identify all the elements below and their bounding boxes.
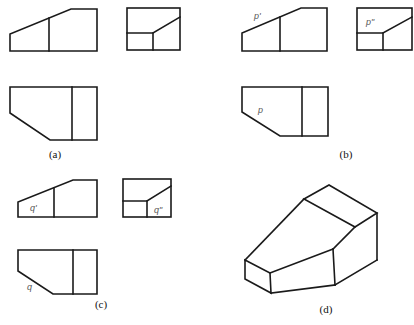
label-p: p	[257, 105, 263, 115]
panel-c-side-view: q"	[123, 179, 171, 217]
panel-a-caption: (a)	[49, 148, 62, 161]
three-view-figure: (a) p' p" p (b) q'	[0, 0, 414, 325]
panel-a-front-view	[10, 9, 97, 51]
panel-c: q' q" q (c)	[18, 179, 171, 311]
panel-d-caption: (d)	[320, 303, 333, 316]
panel-b-top-view: p	[242, 87, 328, 136]
panel-b-caption: (b)	[340, 148, 353, 161]
label-p-prime: p'	[253, 11, 261, 21]
label-p-double-prime: p"	[365, 17, 375, 27]
panel-b-front-view: p'	[242, 8, 327, 51]
panel-c-caption: (c)	[95, 298, 108, 311]
panel-b: p' p" p (b)	[242, 8, 412, 161]
panel-c-top-view: q	[18, 250, 97, 294]
label-q: q	[27, 282, 32, 292]
panel-a-side-view	[127, 8, 180, 50]
panel-a-top-view	[10, 87, 97, 140]
label-q-double-prime: q"	[154, 205, 163, 215]
label-q-prime: q'	[30, 203, 37, 213]
panel-a: (a)	[10, 8, 180, 161]
panel-d-isometric-view	[245, 185, 377, 293]
panel-c-front-view: q'	[18, 180, 97, 217]
panel-d: (d)	[245, 185, 377, 316]
panel-b-side-view: p"	[357, 8, 412, 50]
